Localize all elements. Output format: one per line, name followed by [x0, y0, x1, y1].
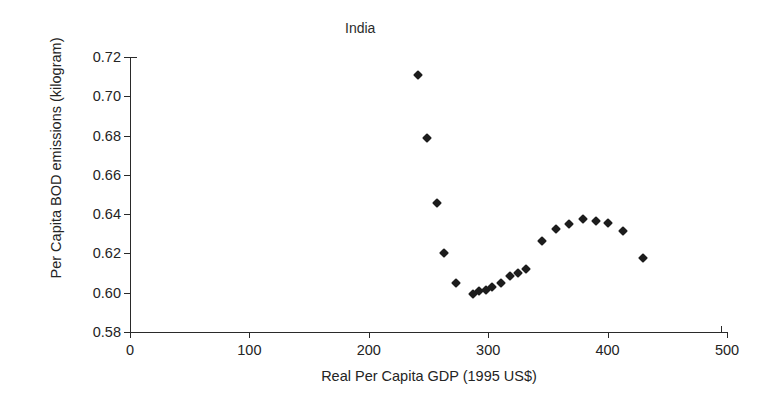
data-point — [564, 219, 574, 229]
x-axis-line — [130, 332, 728, 333]
chart-page: India 0.580.600.620.640.660.680.700.72 0… — [0, 0, 781, 402]
x-tick-mark — [727, 332, 728, 338]
y-tick-label: 0.64 — [93, 206, 121, 222]
y-tick-mark — [124, 136, 130, 137]
y-tick-mark — [124, 293, 130, 294]
data-point — [496, 278, 506, 288]
x-tick-label: 0 — [126, 342, 134, 358]
plot-area: 0.580.600.620.640.660.680.700.72 0100200… — [130, 57, 727, 332]
data-point — [618, 226, 628, 236]
data-point — [591, 216, 601, 226]
y-tick-label: 0.70 — [93, 88, 121, 104]
y-tick-label: 0.72 — [93, 49, 121, 65]
data-point — [638, 253, 648, 263]
x-tick-mark — [249, 332, 250, 338]
y-tick-label: 0.58 — [93, 324, 121, 340]
x-tick-mark — [130, 332, 131, 338]
chart-title: India — [345, 20, 375, 36]
y-tick-label: 0.66 — [93, 167, 121, 183]
y-axis-title: Per Capita BOD emissions (kilogram) — [48, 18, 64, 298]
y-tick-mark — [124, 253, 130, 254]
data-point — [578, 214, 588, 224]
data-point — [422, 133, 432, 143]
y-tick-mark — [124, 57, 130, 58]
y-tick-label: 0.60 — [93, 285, 121, 301]
data-point — [537, 236, 547, 246]
data-point — [551, 224, 561, 234]
x-tick-mark — [369, 332, 370, 338]
data-point — [451, 279, 461, 289]
y-tick-mark — [124, 96, 130, 97]
x-tick-label: 500 — [715, 342, 739, 358]
data-point — [603, 218, 613, 228]
x-tick-mark — [488, 332, 489, 338]
x-axis-title: Real Per Capita GDP (1995 US$) — [130, 368, 728, 384]
y-tick-label: 0.62 — [93, 245, 121, 261]
x-tick-label: 100 — [237, 342, 261, 358]
data-point — [432, 198, 442, 208]
x-tick-label: 300 — [476, 342, 500, 358]
x-tick-mark — [608, 332, 609, 338]
x-tick-label: 200 — [357, 342, 381, 358]
data-point — [413, 70, 423, 80]
y-tick-mark — [124, 175, 130, 176]
data-point — [439, 248, 449, 258]
y-tick-mark — [124, 214, 130, 215]
y-tick-label: 0.68 — [93, 128, 121, 144]
x-tick-label: 400 — [595, 342, 619, 358]
